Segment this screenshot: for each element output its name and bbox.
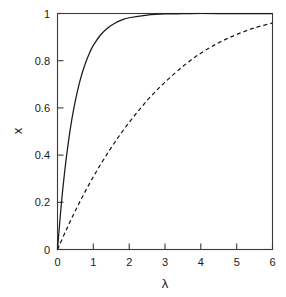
y-tick-label: 0.2 (35, 196, 50, 208)
y-tick-label: 0 (44, 244, 50, 256)
x-tick-label: 4 (198, 256, 204, 268)
x-tick-label: 1 (90, 256, 96, 268)
series-solid-curve (58, 13, 273, 249)
series-dashed-curve (58, 23, 273, 250)
x-tick-label: 6 (269, 256, 275, 268)
y-tick-label: 1 (44, 8, 50, 20)
y-axis-title: x (10, 127, 25, 134)
x-tick-label: 2 (126, 256, 132, 268)
line-chart: 0 1 2 3 4 5 6 0 0.2 0.4 0.6 0.8 1 λ x (0, 0, 286, 297)
y-tick-label: 0.8 (35, 55, 50, 67)
y-tick-labels: 0 0.2 0.4 0.6 0.8 1 (35, 8, 50, 256)
x-tick-label: 3 (162, 256, 168, 268)
x-tick-labels: 0 1 2 3 4 5 6 (54, 256, 275, 268)
x-tick-label: 5 (234, 256, 240, 268)
x-tick-label: 0 (54, 256, 60, 268)
x-axis-ticks (58, 244, 273, 250)
plot-frame (58, 14, 273, 250)
y-tick-label: 0.4 (35, 149, 50, 161)
y-tick-label: 0.6 (35, 102, 50, 114)
chart-figure: 0 1 2 3 4 5 6 0 0.2 0.4 0.6 0.8 1 λ x (0, 0, 286, 297)
x-axis-title: λ (162, 276, 169, 291)
